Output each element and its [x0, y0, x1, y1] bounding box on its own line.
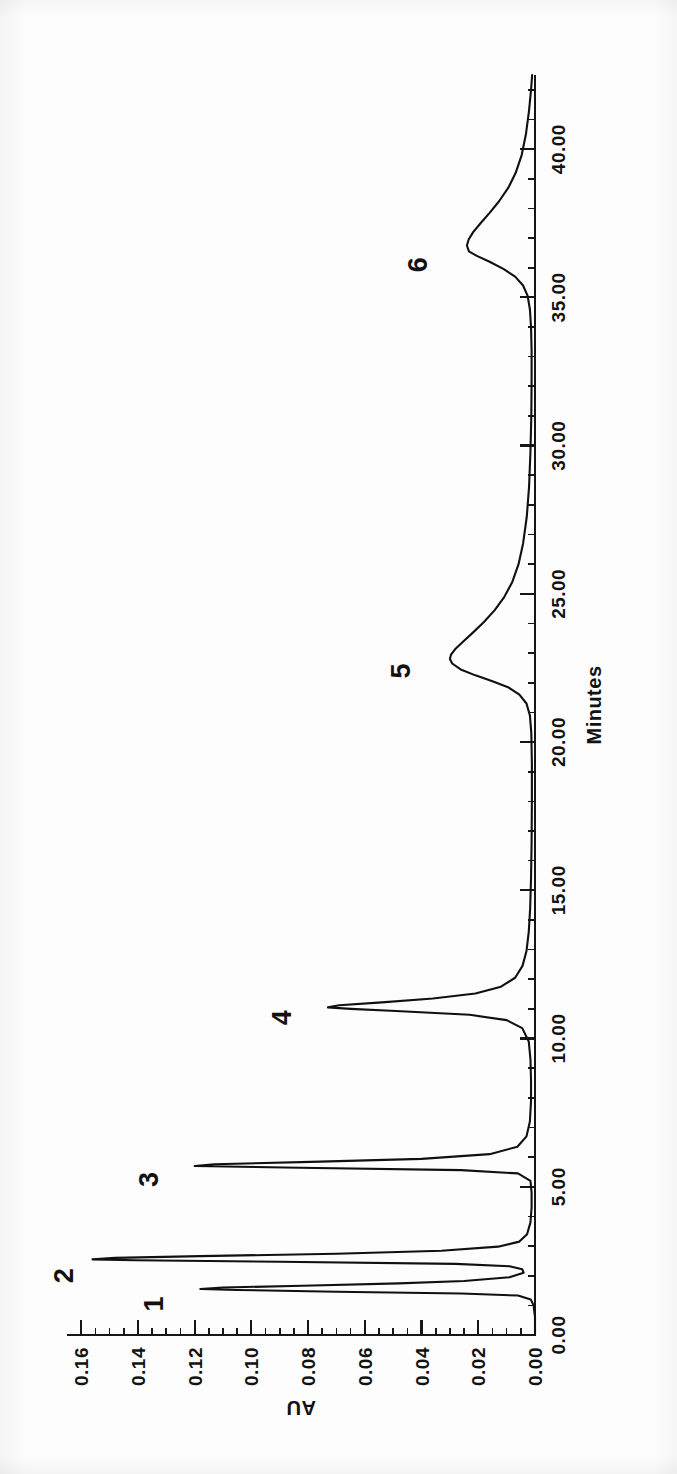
peak-label-4: 4 — [267, 1010, 297, 1025]
peak-label-2: 2 — [48, 1268, 78, 1283]
axis-lines — [67, 75, 535, 1335]
x-tick-label: 15.00 — [548, 865, 569, 915]
chromatogram-plot: 0.005.0010.0015.0020.0025.0030.0035.0040… — [39, 47, 639, 1427]
peak-labels-layer: 123456 — [48, 257, 433, 1311]
peak-label-5: 5 — [386, 663, 416, 678]
peak-label-6: 6 — [403, 257, 433, 272]
x-tick-label: 40.00 — [548, 124, 569, 174]
chromatogram-svg: 0.005.0010.0015.0020.0025.0030.0035.0040… — [39, 47, 639, 1427]
y-tick-label: 0.08 — [298, 1347, 319, 1386]
y-tick-label: 0.02 — [468, 1347, 489, 1386]
x-tick-label: 20.00 — [548, 717, 569, 767]
y-tick-label: 0.14 — [127, 1347, 148, 1386]
y-tick-label: 0.04 — [411, 1347, 432, 1386]
peak-label-3: 3 — [133, 1172, 163, 1187]
y-tick-label: 0.16 — [71, 1347, 92, 1386]
x-tick-label: 25.00 — [548, 569, 569, 619]
chromatogram-rotor: 0.005.0010.0015.0020.0025.0030.0035.0040… — [39, 47, 639, 1427]
x-tick-label: 5.00 — [548, 1167, 569, 1206]
x-tick-label: 0.00 — [548, 1316, 569, 1355]
axes-layer: 0.005.0010.0015.0020.0025.0030.0035.0040… — [67, 75, 569, 1386]
peak-label-1: 1 — [139, 1296, 169, 1311]
x-tick-label: 10.00 — [548, 1014, 569, 1064]
trace-layer — [92, 75, 534, 1335]
y-tick-label: 0.12 — [184, 1347, 205, 1386]
x-tick-label: 35.00 — [548, 272, 569, 322]
scanned-page: 0.005.0010.0015.0020.0025.0030.0035.0040… — [0, 0, 677, 1474]
y-tick-label: 0.10 — [241, 1347, 262, 1386]
x-tick-label: 30.00 — [548, 421, 569, 471]
x-axis-title: Minutes — [583, 665, 605, 744]
chromatogram-trace — [92, 75, 534, 1335]
y-tick-label: 0.06 — [354, 1347, 375, 1386]
y-tick-label: 0.00 — [525, 1347, 546, 1386]
y-axis-title: AU — [286, 1397, 316, 1419]
